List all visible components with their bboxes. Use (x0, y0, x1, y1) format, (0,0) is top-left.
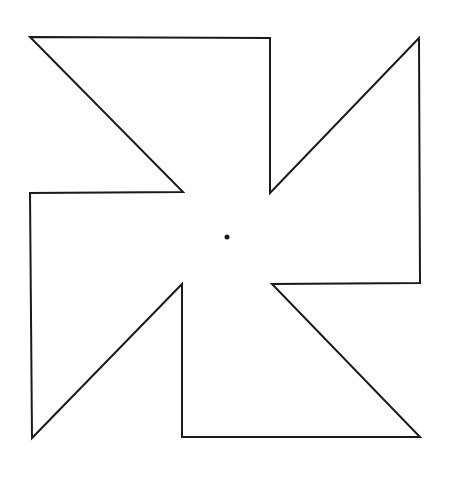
pinwheel-diagram (0, 0, 451, 503)
center-dot (225, 235, 230, 240)
